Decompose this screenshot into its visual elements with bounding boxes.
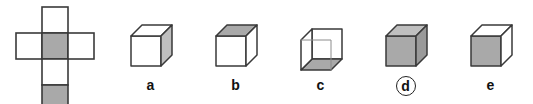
cube-net-svg: [0, 0, 108, 104]
option-e-label: e: [448, 76, 533, 96]
cube-c-svg: [295, 24, 347, 68]
option-b-label: b: [193, 76, 278, 96]
cube-e-svg: [465, 24, 517, 68]
option-d-label: d: [363, 76, 448, 96]
cube-net-diagram: [0, 0, 108, 104]
option-b[interactable]: b: [193, 0, 278, 104]
net-cell-left: [16, 33, 42, 59]
cube-face-front: [131, 36, 161, 66]
net-cell-bottom: [42, 85, 68, 104]
cube-d-svg: [380, 24, 432, 68]
cube-d: [380, 24, 432, 68]
option-a-letter: a: [141, 76, 161, 96]
option-c-label: c: [278, 76, 363, 96]
cube-face-front: [216, 36, 246, 66]
cube-options-row: a b c: [108, 0, 533, 104]
cube-a: [125, 24, 177, 68]
cube-b-svg: [210, 24, 262, 68]
cube-net-figure: a b c: [0, 0, 533, 104]
option-d-letter-circled: d: [396, 76, 416, 96]
cube-c: [295, 24, 347, 68]
option-a-label: a: [108, 76, 193, 96]
cube-face-front: [312, 29, 342, 59]
cube-e: [465, 24, 517, 68]
cube-face-front: [471, 36, 501, 66]
cube-b: [210, 24, 262, 68]
option-e[interactable]: e: [448, 0, 533, 104]
net-cell-top: [42, 7, 68, 33]
net-cell-group: [16, 7, 94, 104]
net-cell-center: [42, 33, 68, 59]
net-cell-below-center: [42, 59, 68, 85]
option-b-letter: b: [226, 76, 246, 96]
option-e-letter: e: [481, 76, 501, 96]
option-c[interactable]: c: [278, 0, 363, 104]
option-d[interactable]: d: [363, 0, 448, 104]
cube-a-svg: [125, 24, 177, 68]
option-a[interactable]: a: [108, 0, 193, 104]
net-cell-right: [68, 33, 94, 59]
option-c-letter: c: [311, 76, 331, 96]
cube-face-front: [386, 36, 416, 66]
